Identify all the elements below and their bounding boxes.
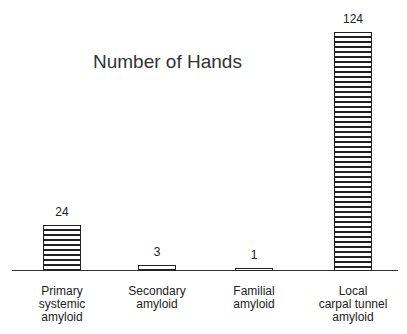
value-label: 24 — [32, 205, 92, 219]
category-label: Primarysystemicamyloid — [7, 285, 117, 324]
category-label: Localcarpal tunnelamyloid — [298, 285, 407, 324]
bar — [138, 265, 176, 271]
bar — [235, 268, 273, 271]
category-label: Familialamyloid — [199, 285, 309, 311]
bar — [334, 32, 372, 271]
bar-chart: Number of Hands 24Primarysystemicamyloid… — [0, 0, 407, 334]
value-label: 3 — [127, 245, 187, 259]
value-label: 1 — [224, 248, 284, 262]
category-label: Secondaryamyloid — [102, 285, 212, 311]
chart-title: Number of Hands — [93, 51, 242, 73]
value-label: 124 — [323, 12, 383, 26]
bar — [43, 225, 81, 271]
